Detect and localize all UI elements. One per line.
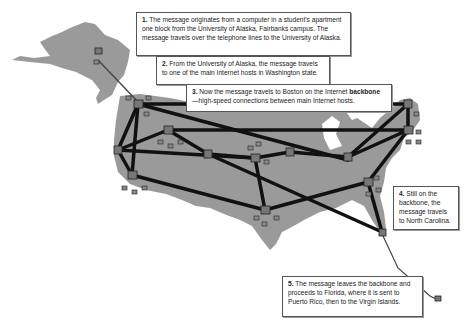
server-icon-colorado (164, 126, 173, 134)
step-4-callout: 4. Still on the backbone, the message tr… (393, 186, 459, 230)
step-5-number: 5. (288, 280, 294, 287)
step-3-number: 3. (192, 88, 198, 95)
step-2-callout: 2. From the University of Alaska, the me… (156, 56, 330, 85)
step-3-callout: 3. Now the message travels to Boston on … (186, 84, 392, 112)
server-icon-virgin-islands (435, 296, 441, 301)
step-2-text: From the University of Alaska, the messa… (162, 60, 318, 76)
step-3-text-before: Now the message travels to Boston on the… (199, 88, 349, 95)
server-icon-central-1 (204, 150, 212, 158)
step-5-text: The message leaves the backbone and proc… (288, 280, 410, 305)
step-4-text: Still on the backbone, the message trave… (399, 190, 451, 224)
step-2-number: 2. (162, 60, 168, 67)
server-icon-california (128, 171, 137, 179)
server-icon-chicago (344, 153, 352, 161)
server-icon-new-york (404, 126, 413, 134)
server-icon-texas (261, 206, 270, 214)
server-icon-central-3 (286, 148, 294, 156)
server-icon-boston (404, 100, 412, 108)
alaska-landmass (12, 22, 130, 104)
server-icon-oregon (114, 146, 122, 154)
step-1-callout: 1. The message originates from a compute… (136, 12, 351, 56)
server-icon-alaska (95, 48, 102, 54)
server-icon-central-2 (251, 154, 260, 162)
server-icon-florida (379, 229, 386, 236)
step-4-number: 4. (399, 190, 405, 197)
step-3-text-after: —high-speed connections between main Int… (192, 97, 355, 104)
server-icon-washington (134, 100, 143, 108)
step-1-text: The message originates from a computer i… (142, 16, 341, 41)
step-5-callout: 5. The message leaves the backbone and p… (282, 276, 423, 317)
step-1-number: 1. (142, 16, 148, 23)
step-3-bold-term: backbone (349, 88, 380, 95)
server-icon-north-carolina (364, 178, 373, 186)
